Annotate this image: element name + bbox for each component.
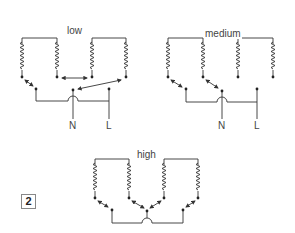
diagram-high (93, 159, 200, 223)
neutral-label-low: N (69, 121, 76, 131)
figure-number-badge: 2 (21, 194, 36, 209)
live-label-low: L (106, 121, 112, 131)
diagram-medium (166, 38, 275, 119)
diagram-title-medium: medium (204, 29, 242, 39)
diagram-title-high: high (137, 150, 156, 160)
diagram-low (20, 38, 128, 119)
wiring-diagram-figure: low N L medium N L high 2 (0, 0, 295, 233)
neutral-label-medium: N (218, 121, 225, 131)
live-label-medium: L (254, 121, 260, 131)
diagram-title-low: low (67, 26, 82, 36)
circuit-diagrams (0, 0, 295, 233)
